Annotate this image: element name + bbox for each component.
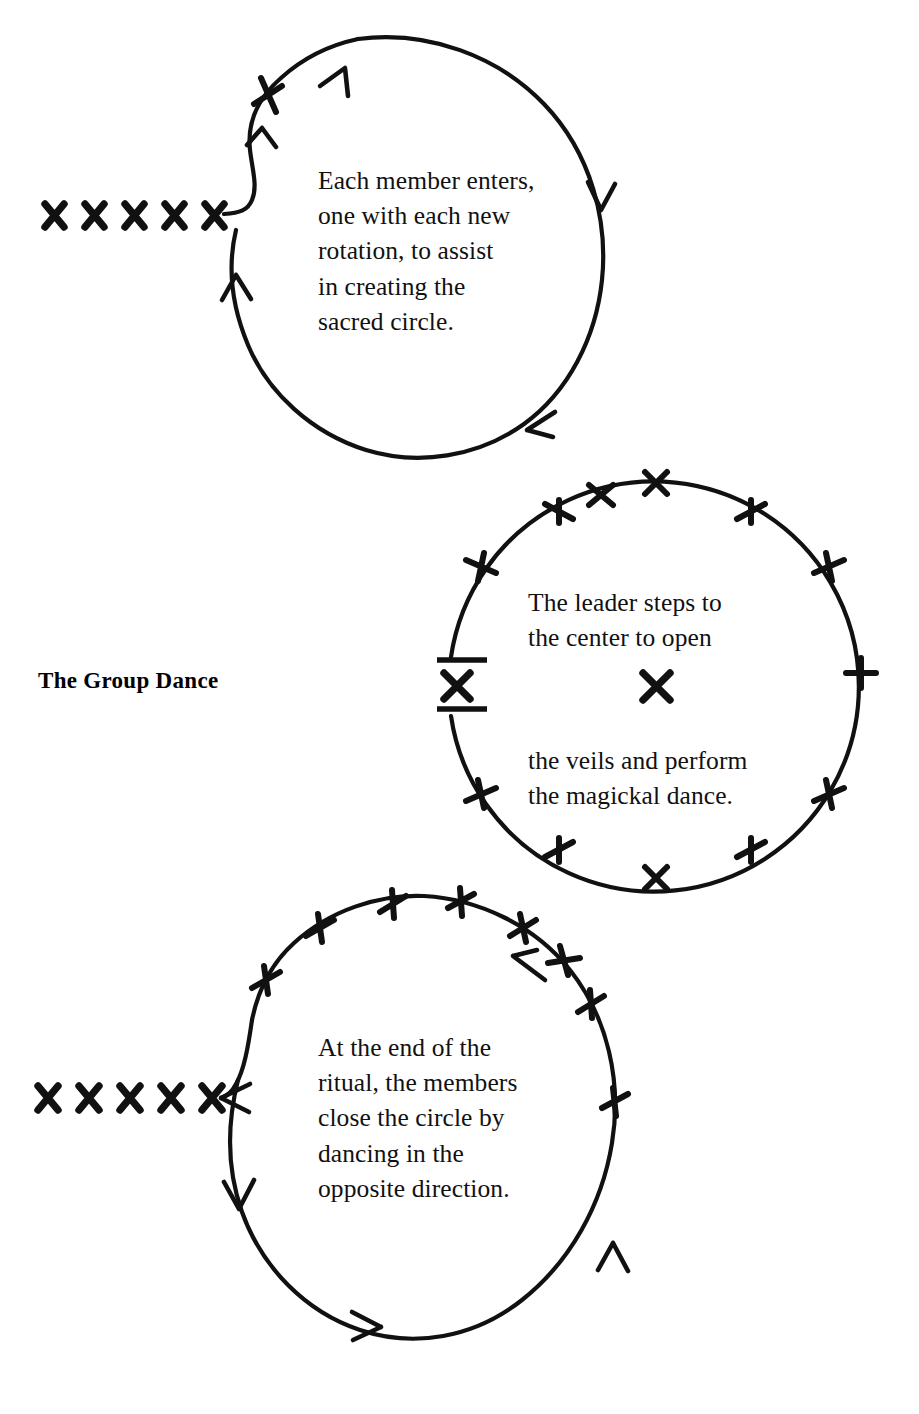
caption-veils-and-dance: the veils and perform the magickal dance… [528,743,838,813]
section-label-group-dance: The Group Dance [38,668,218,694]
diagram-page: .ink { stroke:#111111; fill:none; stroke… [0,0,919,1414]
queue-marks-entering [45,204,224,227]
member-marks-full-circle [466,472,876,889]
caption-members-enter: Each member enters, one with each new ro… [318,163,578,339]
leader-center-mark [643,673,670,700]
queue-marks-closing [38,1086,222,1110]
caption-leader-steps-to-center: The leader steps to the center to open [528,585,828,655]
panel-full-circle [437,472,876,891]
circle-gateway [437,660,487,709]
caption-closing-the-circle: At the end of the ritual, the members cl… [318,1030,588,1206]
